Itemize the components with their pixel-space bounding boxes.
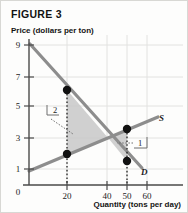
shaded-region-2: [67, 90, 109, 154]
x-tick-label-40: 40: [103, 191, 113, 201]
point-supply-at-20: [63, 150, 71, 158]
point-demand-at-50: [123, 157, 131, 165]
y-tick-label-1: 1: [16, 164, 21, 174]
y-tick-label-9: 9: [16, 40, 21, 50]
figure-card: FIGURE 3 Price (dollars per ton) Quantit…: [0, 0, 188, 213]
callout-1-label: 1: [138, 138, 142, 148]
curve-label-d: D: [140, 167, 148, 177]
supply-demand-chart: 9 7 5 3 1 0 20 40 50 60 S D 2 1: [1, 1, 188, 213]
point-supply-at-50: [123, 125, 131, 133]
x-tick-label-20: 20: [63, 191, 73, 201]
y-tick-label-7: 7: [16, 72, 21, 82]
y-tick-label-5: 5: [16, 101, 21, 111]
curve-label-s: S: [159, 113, 164, 123]
origin-label: 0: [16, 187, 21, 197]
x-tick-label-50: 50: [123, 191, 133, 201]
point-demand-at-20: [63, 86, 71, 94]
callout-2-label: 2: [53, 105, 57, 115]
y-tick-label-3: 3: [16, 133, 21, 143]
x-tick-label-60: 60: [143, 191, 153, 201]
